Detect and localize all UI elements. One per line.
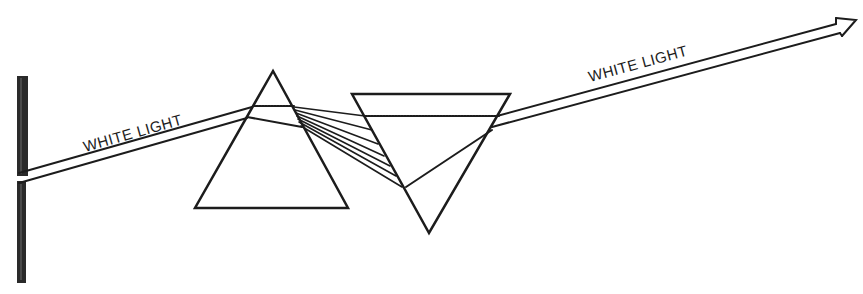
screen-wall — [17, 76, 28, 283]
dispersed-rays — [294, 107, 402, 187]
outgoing-beam — [492, 18, 856, 127]
incoming-beam-label: WHITE LIGHT — [81, 111, 184, 155]
prism-1 — [195, 71, 348, 208]
prism-2 — [352, 94, 510, 233]
prism-diagram: WHITE LIGHT WHITE LIGHT — [0, 0, 863, 294]
